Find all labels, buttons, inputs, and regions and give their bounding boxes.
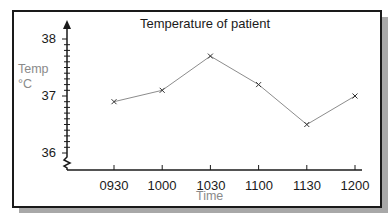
temperature-series [112,54,358,127]
y-axis-line [64,28,70,170]
axes [62,20,362,170]
data-point-marker-icon [353,94,358,99]
data-point-marker-icon [304,122,309,127]
y-axis-arrow-icon [63,20,71,29]
data-point-marker-icon [256,82,261,87]
temperature-line [114,56,355,124]
plot-area [0,0,388,213]
data-point-marker-icon [208,54,213,59]
